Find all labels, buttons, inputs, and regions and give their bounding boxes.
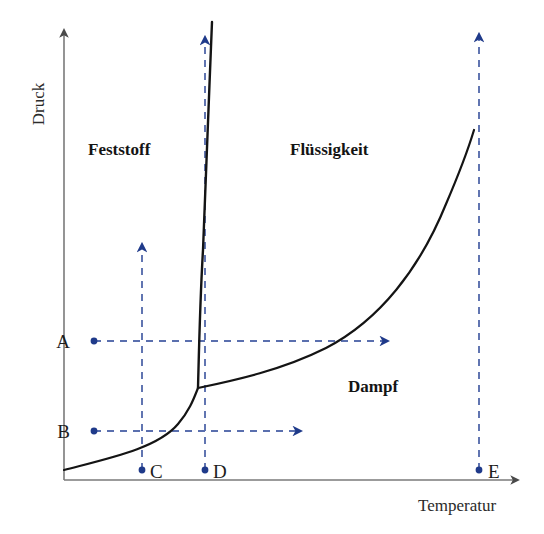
point-label-c: C (150, 461, 163, 482)
x-axis-title: Temperatur (418, 496, 496, 515)
region-labels-group: Feststoff Flüssigkeit Dampf (88, 140, 398, 396)
phase-diagram-figure: Feststoff Flüssigkeit Dampf A B C D E Te… (0, 0, 544, 534)
point-markers-group (91, 338, 483, 474)
point-marker-b[interactable] (91, 428, 98, 435)
point-label-a: A (56, 331, 70, 352)
point-label-d: D (213, 461, 227, 482)
axes-group (64, 30, 518, 480)
point-label-b: B (57, 421, 70, 442)
region-label-fluessigkeit: Flüssigkeit (290, 140, 369, 159)
region-label-dampf: Dampf (348, 377, 398, 396)
point-marker-a[interactable] (91, 338, 98, 345)
phase-diagram-canvas: Feststoff Flüssigkeit Dampf A B C D E Te… (0, 0, 544, 534)
point-marker-e[interactable] (476, 467, 483, 474)
point-labels-group: A B C D E (56, 331, 499, 482)
y-axis-title: Druck (29, 82, 48, 125)
region-label-feststoff: Feststoff (88, 140, 151, 159)
vaporization-curve (198, 130, 474, 388)
phase-boundaries-group (64, 22, 474, 470)
point-marker-d[interactable] (202, 467, 209, 474)
sublimation-curve (64, 388, 198, 470)
point-label-e: E (488, 461, 500, 482)
point-marker-c[interactable] (139, 467, 146, 474)
